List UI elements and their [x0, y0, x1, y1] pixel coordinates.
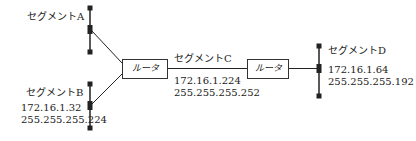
segment-b-label: セグメントB [26, 87, 83, 99]
segment-d-label: セグメントD [328, 45, 386, 57]
segment-b-mask: 255.255.255.224 [21, 114, 107, 126]
router-1-label: ルータ [132, 63, 159, 73]
segment-c-label: セグメントC [174, 53, 232, 65]
segment-d-mask: 255.255.255.192 [328, 76, 414, 88]
segment-c-address: 172.16.1.224 [174, 75, 241, 87]
segment-a-label: セグメントA [27, 11, 84, 23]
segment-c-mask: 255.255.255.252 [174, 87, 260, 99]
router-2: ルータ [247, 59, 289, 79]
segment-d-bus [317, 44, 322, 99]
segment-b-address: 172.16.1.32 [21, 102, 81, 114]
segment-a-bus [88, 6, 93, 55]
link-a-router1 [92, 31, 122, 63]
router-1: ルータ [122, 59, 168, 79]
router-2-label: ルータ [255, 63, 282, 73]
segment-d-address: 172.16.1.64 [328, 64, 388, 76]
link-b-router1 [92, 74, 122, 104]
